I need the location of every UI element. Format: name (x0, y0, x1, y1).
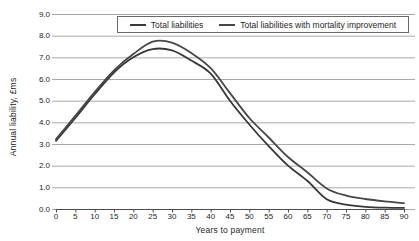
series-line-total-liabilities (56, 48, 404, 207)
y-tick-label-7.0: 7.0 (22, 53, 50, 62)
y-tick-label-8.0: 8.0 (22, 31, 50, 40)
y-tick-label-4.0: 4.0 (22, 118, 50, 127)
legend-item-mortality-improvement: Total liabilities with mortality improve… (219, 20, 396, 30)
legend-label-mortality-improvement: Total liabilities with mortality improve… (240, 20, 396, 30)
legend-label-total-liabilities: Total liabilities (151, 20, 203, 30)
x-tick-label-90: 90 (393, 212, 415, 221)
y-tick-label-5.0: 5.0 (22, 96, 50, 105)
y-axis-title: Annual liability, £ms (8, 78, 18, 157)
x-axis-title: Years to payment (195, 225, 264, 235)
chart-figure: Annual liability, £ms Years to payment T… (0, 0, 419, 241)
legend: Total liabilities Total liabilities with… (117, 16, 409, 33)
y-tick-label-2.0: 2.0 (22, 161, 50, 170)
plot-area (0, 0, 419, 241)
legend-line-sample-icon (219, 24, 235, 26)
y-tick-label-3.0: 3.0 (22, 140, 50, 149)
y-tick-label-6.0: 6.0 (22, 75, 50, 84)
series-line-mortality-improvement (56, 41, 404, 204)
legend-item-total-liabilities: Total liabilities (130, 20, 203, 30)
y-tick-label-9.0: 9.0 (22, 10, 50, 19)
y-tick-label-1.0: 1.0 (22, 183, 50, 192)
legend-line-sample-icon (130, 24, 146, 26)
